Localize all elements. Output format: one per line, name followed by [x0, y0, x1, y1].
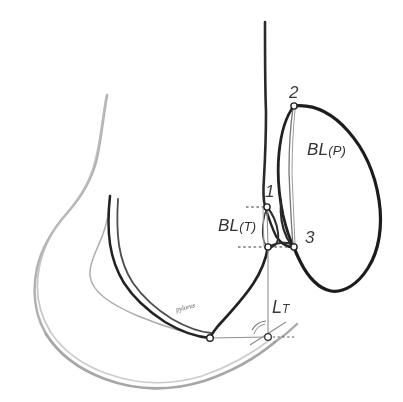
label-bl-p-main: BL [307, 140, 328, 159]
caliper-bl-t-vertical-b [263, 208, 264, 247]
marker-point-2 [291, 103, 297, 109]
label-bl-t: BL(T) [218, 216, 256, 236]
outer-wall-inner-echo-lower [50, 331, 271, 383]
label-point-3: 3 [305, 228, 314, 248]
anatomical-figure: 2 1 3 BL(P) BL(T) LT pylorus [0, 0, 403, 402]
label-bl-t-main: BL [218, 216, 239, 235]
label-point-1: 1 [265, 182, 274, 202]
bulb-outer-contour [294, 106, 381, 292]
label-lt-main: L [272, 297, 282, 317]
label-bl-p: BL(P) [307, 140, 346, 160]
figure-drawing-canvas [0, 0, 403, 402]
label-lt-sub: T [282, 302, 289, 316]
label-bl-p-sub: (P) [328, 143, 346, 158]
label-bl-t-sub: (T) [239, 219, 256, 234]
bulb-lumen-midline-b [292, 110, 295, 244]
antral-wall-dark [210, 247, 268, 338]
angle-arc [252, 321, 266, 330]
marker-bl-t-lower [265, 244, 271, 250]
baseline-horizontal [210, 337, 268, 338]
label-point-2: 2 [289, 83, 298, 103]
greater-curvature-dark [109, 196, 211, 338]
label-lt: LT [272, 297, 289, 318]
outer-wall-inner-echo [37, 98, 106, 331]
marker-angle-vertex [265, 334, 272, 341]
outer-wall-upper-left [35, 95, 107, 334]
marker-point-1 [264, 204, 270, 210]
esophagus-line [263, 22, 266, 206]
marker-greater-curve-low [207, 335, 214, 342]
marker-point-3 [291, 244, 297, 250]
